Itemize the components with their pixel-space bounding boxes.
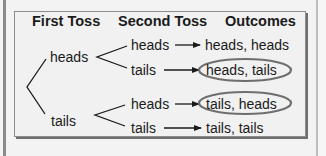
first-toss-tails: tails <box>51 113 76 129</box>
second-toss-tails-heads: heads <box>131 96 169 112</box>
tree-branches <box>0 0 326 156</box>
root-branch <box>27 59 46 114</box>
outcome-tails-heads: tails, heads <box>206 96 277 112</box>
outcome-tails-tails: tails, tails <box>206 120 264 136</box>
second-toss-heads-tails: tails <box>131 62 156 78</box>
first-toss-heads: heads <box>50 49 88 65</box>
second-toss-heads-heads: heads <box>131 37 169 53</box>
outcome-heads-tails: heads, tails <box>206 62 277 78</box>
tails-branch <box>95 105 125 126</box>
outcome-heads-heads: heads, heads <box>205 37 289 53</box>
second-toss-tails-tails: tails <box>131 120 156 136</box>
heads-branch <box>97 46 127 68</box>
